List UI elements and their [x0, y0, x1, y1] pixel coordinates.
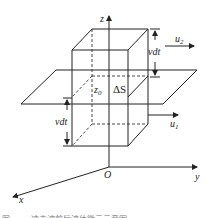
y-axis-label: y — [194, 171, 200, 182]
u1-label: u1 — [170, 118, 179, 131]
figure-caption: 图 …… 冲击波前后流体微元示意图 — [2, 214, 127, 218]
lower-height-label: vdt — [55, 116, 67, 127]
u2-label: u2 — [175, 33, 184, 46]
z-axis-label: z — [99, 13, 104, 24]
x-axis — [13, 167, 109, 197]
area-label: ΔS — [113, 83, 126, 95]
area-element-outline — [72, 76, 148, 97]
lower-volume-element — [72, 124, 148, 146]
z0-label: z0 — [93, 84, 102, 97]
origin-label: O — [104, 169, 111, 180]
flow-element-diagram: z y x O vdt vdt u2 u1 z0 ΔS 图 …… 冲击波前后流体… — [0, 0, 212, 218]
x-axis-label: x — [18, 194, 24, 205]
upper-height-label: vdt — [148, 46, 160, 57]
lower-height-dimension: vdt — [55, 98, 72, 146]
